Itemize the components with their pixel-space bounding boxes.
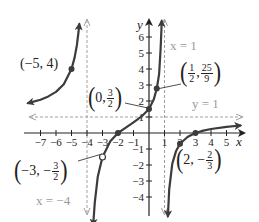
asymptote-label-x-1: x = 1 <box>170 38 197 53</box>
x-axis-label: x <box>235 134 242 149</box>
leader-line <box>125 103 148 108</box>
right-paren: ) <box>115 85 122 111</box>
key-point <box>193 130 199 136</box>
y-tick-label: −1 <box>132 143 144 155</box>
y-tick-label: 6 <box>139 31 145 43</box>
key-point <box>69 66 75 72</box>
left-paren: ( <box>14 158 21 184</box>
x-tick-label: −5 <box>66 136 78 148</box>
y-tick-label: 3 <box>139 79 145 91</box>
x-tick-label: −7 <box>35 136 47 148</box>
numerator: 3 <box>107 88 114 99</box>
key-point <box>146 106 152 112</box>
leader-line <box>78 154 102 161</box>
point-label-text: (−5, 4) <box>20 57 58 71</box>
hole-point <box>100 154 106 160</box>
y-tick-label: −3 <box>132 175 144 187</box>
key-point <box>154 86 160 92</box>
y-tick-label: −2 <box>132 159 144 171</box>
fraction: 2 3 <box>206 150 213 171</box>
coord-x: 2, − <box>183 153 205 167</box>
y-tick-label: 4 <box>139 63 145 75</box>
comma: , <box>196 66 200 80</box>
point-label-minus5-4: (−5, 4) <box>20 57 58 71</box>
rational-function-graph: −7−6−5−4−3−2−112345−4−3−2−1123456 x y x … <box>0 0 259 222</box>
y-tick-label: 5 <box>139 47 145 59</box>
right-paren: ) <box>214 60 221 86</box>
point-label-half-25-9: ( 1 2 , 25 9 ) <box>180 62 221 84</box>
x-tick-label: −4 <box>81 136 93 148</box>
y-tick-label: −4 <box>132 191 144 203</box>
fraction: 3 2 <box>52 161 59 182</box>
y-tick-label: 2 <box>139 95 145 107</box>
leader-line <box>157 84 181 89</box>
fraction: 25 9 <box>201 63 213 84</box>
x-tick-label: 1 <box>162 136 168 148</box>
asymptote-label-y-1: y = 1 <box>192 96 219 111</box>
left-paren: ( <box>180 60 187 86</box>
y-axis-label: y <box>135 17 143 32</box>
x-tick-label: 3 <box>193 136 199 148</box>
right-paren: ) <box>60 158 67 184</box>
point-label-minus3-minus-3-2: ( −3, − 3 2 ) <box>14 160 67 182</box>
asymptote-label-x-minus-4: x = −4 <box>36 193 71 208</box>
point-label-2-minus-2-3: ( 2, − 2 3 ) <box>176 149 222 171</box>
denominator: 9 <box>204 74 209 84</box>
numerator: 1 <box>188 63 195 74</box>
fraction: 1 2 <box>188 63 195 84</box>
right-paren: ) <box>214 147 221 173</box>
point-label-0-3-2: ( 0, 3 2 ) <box>88 87 122 109</box>
left-paren: ( <box>88 85 95 111</box>
numerator: 3 <box>52 161 59 172</box>
denominator: 3 <box>207 161 212 171</box>
left-paren: ( <box>176 147 183 173</box>
coord-x: 0, <box>95 91 106 105</box>
fraction: 3 2 <box>107 88 114 109</box>
coord-x: −3, − <box>21 164 51 178</box>
denominator: 2 <box>53 172 58 182</box>
x-tick-label: 5 <box>224 136 230 148</box>
denominator: 2 <box>189 74 194 84</box>
numerator: 2 <box>206 150 213 161</box>
x-tick-label: −6 <box>50 136 62 148</box>
curve-branch-middle <box>93 21 162 222</box>
numerator: 25 <box>201 63 213 74</box>
denominator: 2 <box>108 99 113 109</box>
key-point <box>115 130 121 136</box>
